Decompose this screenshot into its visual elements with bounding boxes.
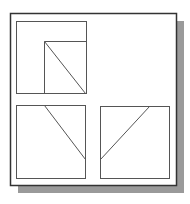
drawing-frame — [11, 14, 177, 186]
drawing-canvas — [0, 0, 190, 204]
